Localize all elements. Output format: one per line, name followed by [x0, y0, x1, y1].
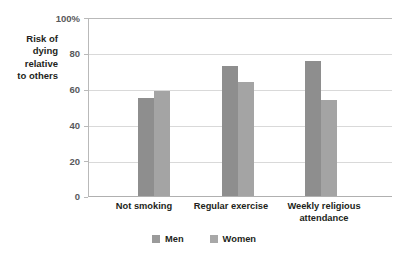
bars-layer: [88, 18, 392, 196]
bar-chart: Risk of dying relative to others 100% 80…: [0, 0, 408, 257]
bar-women-weekly-religious-attendance: [321, 100, 337, 196]
legend: Men Women: [0, 234, 408, 244]
bar-men-weekly-religious-attendance: [305, 61, 321, 196]
y-tick-label-80: 80: [18, 48, 80, 59]
y-tick-label-20: 20: [18, 156, 80, 167]
y-tick-label-60: 60: [18, 84, 80, 95]
category-label-weekly-religious-attendance: Weekly religious attendance: [276, 201, 372, 224]
legend-label-men: Men: [165, 234, 184, 244]
y-tick-label-100: 100%: [18, 13, 80, 24]
legend-swatch-men-icon: [152, 235, 160, 243]
y-tick-label-0: 0: [18, 191, 80, 202]
legend-swatch-women-icon: [210, 235, 218, 243]
category-label-not-smoking: Not smoking: [104, 201, 184, 213]
legend-label-women: Women: [223, 234, 256, 244]
bar-women-not-smoking: [154, 91, 170, 196]
legend-item-men: Men: [152, 234, 184, 244]
y-tick-mark-0: [84, 197, 88, 198]
bar-women-regular-exercise: [238, 82, 254, 196]
bar-men-regular-exercise: [222, 66, 238, 196]
bar-men-not-smoking: [138, 98, 154, 196]
category-label-regular-exercise: Regular exercise: [185, 201, 277, 213]
y-tick-label-40: 40: [18, 120, 80, 131]
legend-item-women: Women: [210, 234, 256, 244]
